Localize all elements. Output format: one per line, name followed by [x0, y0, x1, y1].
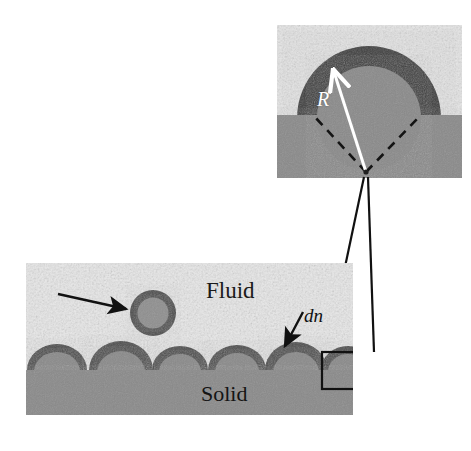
free-particle-core	[138, 298, 169, 329]
free-particle	[130, 290, 176, 336]
inset-detail-panel	[277, 25, 462, 190]
nucleation-figure	[0, 0, 471, 451]
cone-apex-point	[363, 169, 368, 174]
inset-nucleus-inner	[317, 66, 421, 170]
main-schematic-panel	[26, 263, 375, 415]
solid-substrate	[26, 370, 353, 415]
